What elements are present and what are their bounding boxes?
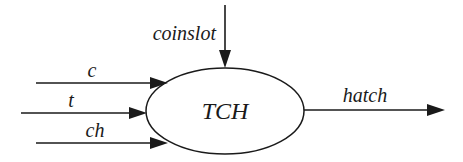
- arrowhead-icon: [219, 50, 231, 68]
- output-flow-hatch: hatch: [304, 84, 445, 116]
- flow-label-coinslot: coinslot: [153, 22, 217, 44]
- process-label: TCH: [202, 98, 250, 124]
- arrowhead-icon: [129, 107, 147, 119]
- input-flow-t: t: [21, 89, 147, 119]
- flow-label-c: c: [88, 59, 97, 81]
- context-diagram: TCH c t ch coinslot hatch: [0, 0, 463, 162]
- input-flow-coinslot: coinslot: [153, 5, 231, 68]
- flow-label-ch: ch: [86, 119, 105, 141]
- flow-label-hatch: hatch: [343, 84, 387, 106]
- process-node: TCH: [146, 68, 304, 154]
- arrowhead-icon: [427, 104, 445, 116]
- flow-label-t: t: [68, 89, 74, 111]
- input-flow-ch: ch: [36, 119, 168, 149]
- input-flow-c: c: [36, 59, 168, 89]
